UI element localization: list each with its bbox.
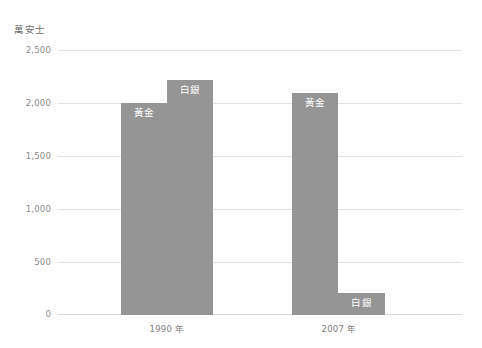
bar-1990-silver[interactable]: 白銀 <box>167 80 213 315</box>
gridline-0-baseline: 0 <box>58 314 462 315</box>
plot-area: 2,500 2,000 1,500 1,000 500 0 黃金 白銀 <box>58 50 462 315</box>
bar-label-1990-silver: 白銀 <box>180 85 201 95</box>
bar-label-2007-silver: 白銀 <box>351 298 372 308</box>
category-label-2007: 2007 年 <box>321 322 356 334</box>
gridline-2500: 2,500 <box>58 50 462 51</box>
bar-label-1990-gold: 黃金 <box>134 108 155 118</box>
y-tick-label-2500: 2,500 <box>26 45 51 55</box>
bar-2007-silver[interactable]: 白銀 <box>338 293 385 315</box>
bar-2007-gold[interactable]: 黃金 <box>292 93 338 315</box>
y-axis-unit-caption: 萬安士 <box>14 22 46 36</box>
y-tick-label-500: 500 <box>34 257 51 267</box>
gridline-1500: 1,500 <box>58 156 462 157</box>
bar-group-1990: 黃金 白銀 <box>121 50 213 315</box>
bar-group-2007: 黃金 白銀 <box>292 50 385 315</box>
gridline-2000: 2,000 <box>58 103 462 104</box>
bar-1990-gold[interactable]: 黃金 <box>121 103 167 315</box>
bar-chart: 萬安士 2,500 2,000 1,500 1,000 500 0 黃金 <box>0 0 482 348</box>
gridline-500: 500 <box>58 262 462 263</box>
y-tick-label-1500: 1,500 <box>26 151 51 161</box>
category-label-1990: 1990 年 <box>149 322 184 334</box>
bar-label-2007-gold: 黃金 <box>305 98 326 108</box>
y-tick-label-0: 0 <box>45 309 51 319</box>
y-tick-label-1000: 1,000 <box>26 204 51 214</box>
y-tick-label-2000: 2,000 <box>26 98 51 108</box>
gridline-1000: 1,000 <box>58 209 462 210</box>
